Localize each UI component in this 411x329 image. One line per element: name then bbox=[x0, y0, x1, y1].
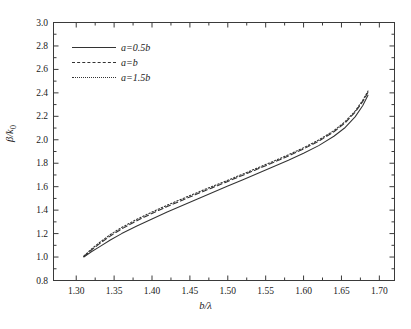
legend-entry: a=1.5b bbox=[72, 70, 150, 85]
x-tick-label: 1.30 bbox=[68, 286, 85, 296]
y-axis-label: β/k0 bbox=[4, 128, 18, 142]
series-line-solid bbox=[84, 95, 368, 257]
x-tick-label: 1.65 bbox=[333, 286, 350, 296]
legend-entry: a=0.5b bbox=[72, 40, 150, 55]
y-tick-label: 1.4 bbox=[22, 205, 48, 215]
x-tick-label: 1.40 bbox=[144, 286, 161, 296]
x-tick-label: 1.70 bbox=[371, 286, 388, 296]
y-tick-label: 1.0 bbox=[22, 252, 48, 262]
legend-key-dashed bbox=[72, 62, 116, 64]
plot-canvas bbox=[0, 0, 411, 329]
y-axis-label-subscript: 0 bbox=[8, 125, 18, 129]
series-line-dashed bbox=[84, 92, 368, 256]
legend-key-dotted bbox=[72, 77, 116, 79]
figure: a=0.5b a=b a=1.5b b/λ β/k0 1.301.351.401… bbox=[0, 0, 411, 329]
y-tick-label: 0.8 bbox=[22, 276, 48, 286]
legend-label: a=0.5b bbox=[121, 42, 150, 53]
x-tick-label: 1.55 bbox=[257, 286, 274, 296]
y-tick-label: 2.4 bbox=[22, 88, 48, 98]
legend-label: a=1.5b bbox=[121, 72, 150, 83]
x-tick-label: 1.60 bbox=[295, 286, 312, 296]
legend-label: a=b bbox=[121, 57, 138, 68]
y-tick-label: 2.2 bbox=[22, 111, 48, 121]
x-tick-label: 1.50 bbox=[219, 286, 236, 296]
x-axis-label: b/λ bbox=[0, 300, 411, 311]
y-tick-label: 2.8 bbox=[22, 41, 48, 51]
legend-entry: a=b bbox=[72, 55, 150, 70]
y-tick-label: 1.8 bbox=[22, 158, 48, 168]
y-axis-label-text: β/k bbox=[4, 129, 15, 142]
y-tick-label: 1.6 bbox=[22, 182, 48, 192]
x-tick-label: 1.45 bbox=[182, 286, 199, 296]
y-tick-label: 3.0 bbox=[22, 18, 48, 28]
y-tick-label: 2.0 bbox=[22, 135, 48, 145]
y-tick-label: 2.6 bbox=[22, 64, 48, 74]
legend: a=0.5b a=b a=1.5b bbox=[72, 40, 150, 85]
y-tick-label: 1.2 bbox=[22, 229, 48, 239]
legend-key-solid bbox=[72, 47, 116, 49]
x-tick-label: 1.35 bbox=[106, 286, 123, 296]
